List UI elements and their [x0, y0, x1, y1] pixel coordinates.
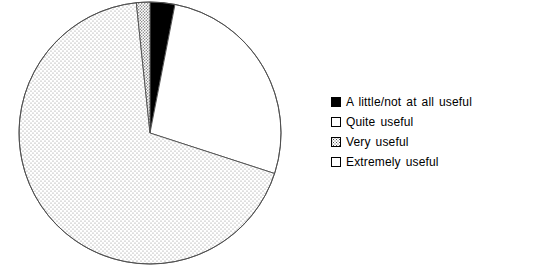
pie-chart-figure: A little/not at all useful Quite useful … — [0, 0, 538, 273]
pie-chart-plot-area — [0, 0, 300, 273]
legend-label-very-useful: Very useful — [346, 136, 409, 149]
legend-label-quite-useful: Quite useful — [346, 116, 413, 129]
legend-swatch-icon-quite-useful — [331, 117, 341, 127]
chart-legend: A little/not at all useful Quite useful … — [331, 92, 536, 172]
legend-item-very-useful[interactable]: Very useful — [331, 132, 536, 152]
legend-label-extremely-useful: Extremely useful — [346, 156, 439, 169]
legend-item-a-little-not-at-all-useful[interactable]: A little/not at all useful — [331, 92, 536, 112]
legend-label-a-little-not-at-all-useful: A little/not at all useful — [346, 96, 472, 109]
legend-swatch-icon-very-useful — [331, 137, 341, 147]
legend-swatch-icon-a-little-not-at-all-useful — [331, 97, 341, 107]
pie-chart-svg — [0, 0, 300, 273]
legend-item-quite-useful[interactable]: Quite useful — [331, 112, 536, 132]
legend-item-extremely-useful[interactable]: Extremely useful — [331, 152, 536, 172]
legend-swatch-icon-extremely-useful — [331, 157, 341, 167]
